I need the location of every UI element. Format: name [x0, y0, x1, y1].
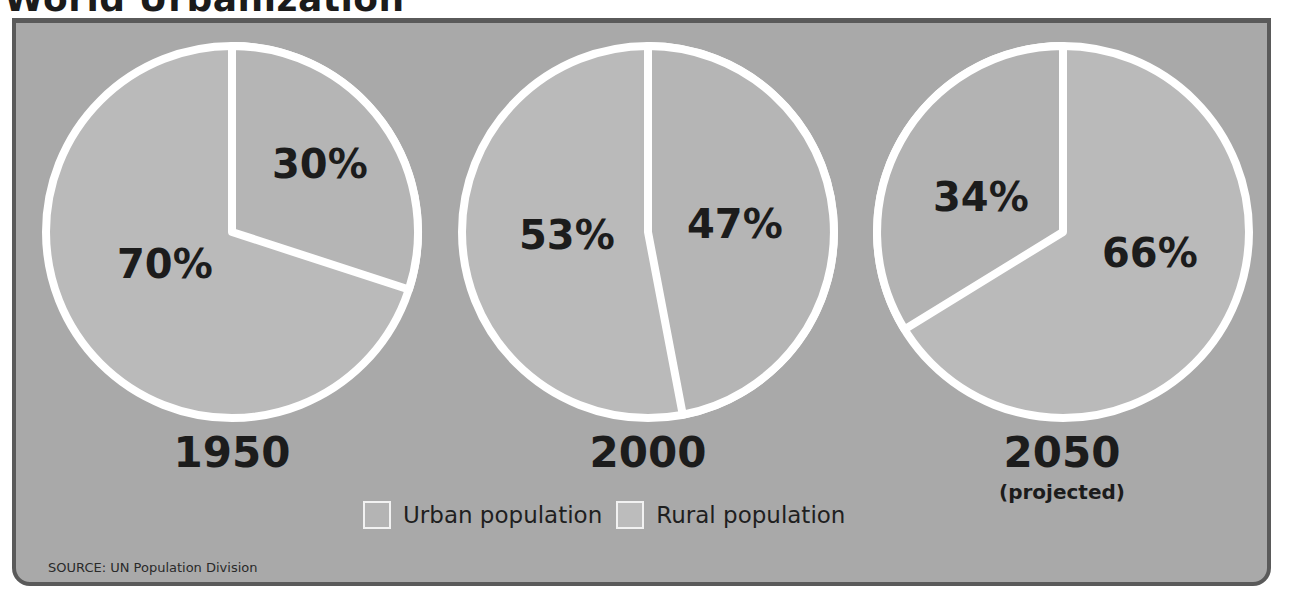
pie-2000: 47% 53%	[462, 46, 834, 418]
legend: Urban population Rural population	[363, 501, 859, 529]
legend-swatch-rural	[616, 501, 644, 529]
pie-2000-rural-label: 53%	[519, 212, 615, 258]
pie-2050-urban-label: 66%	[1102, 230, 1198, 276]
legend-swatch-urban	[363, 501, 391, 529]
legend-label-rural: Rural population	[656, 502, 845, 528]
legend-item-rural: Rural population	[616, 501, 845, 529]
pie-2000-urban-label: 47%	[687, 201, 783, 247]
pie-1950-rural-label: 70%	[117, 241, 213, 287]
projected-note: (projected)	[962, 480, 1162, 504]
pie-1950-urban-label: 30%	[272, 141, 368, 187]
pie-2050-rural-label: 34%	[933, 174, 1029, 220]
legend-item-urban: Urban population	[363, 501, 602, 529]
legend-label-urban: Urban population	[403, 502, 602, 528]
year-label-2050: 2050	[962, 428, 1162, 477]
year-label-2000: 2000	[548, 428, 748, 477]
pie-1950: 30% 70%	[46, 46, 418, 418]
source-note: SOURCE: UN Population Division	[48, 560, 258, 575]
year-label-1950: 1950	[132, 428, 332, 477]
pie-2050: 34% 66%	[877, 46, 1249, 418]
